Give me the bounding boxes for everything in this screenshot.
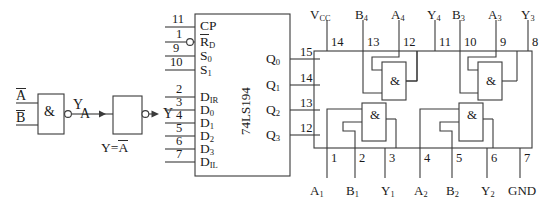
gate-3-input-a3 [468, 51, 496, 70]
package-top-label-a4: A4 [391, 8, 405, 24]
gate-4-input-a4 [372, 51, 399, 70]
gate-2-symbol: & [467, 108, 477, 121]
package-pin-number-8: 8 [532, 36, 538, 49]
gate-1-input-b1 [343, 122, 362, 148]
package-pin-number-7: 7 [524, 152, 530, 165]
package-top-label-vcc: VCC [310, 8, 330, 24]
package-pin-number-3: 3 [389, 152, 395, 165]
package-bottom-label-y1: Y1 [381, 184, 395, 200]
package-top-label-y3: Y3 [521, 8, 535, 24]
package-pin-number-4: 4 [424, 152, 430, 165]
package-top-label-y4: Y4 [427, 8, 441, 24]
gate-2-input-b2 [440, 122, 459, 148]
package-pin-number-14: 14 [331, 36, 344, 49]
package-bottom-label-b2: B2 [446, 184, 459, 200]
package-top-label-a3: A3 [488, 8, 502, 24]
figure-canvas: A B & Y A Y Y=A [0, 0, 548, 204]
gate-1-input-a1 [327, 109, 362, 148]
package-pin-number-10: 10 [464, 36, 477, 49]
package-pin-number-2: 2 [359, 152, 365, 165]
package-pin-number-1: 1 [331, 152, 337, 165]
quad-nand-lines [0, 0, 548, 204]
package-bottom-label-gnd: GND [508, 184, 536, 200]
gate-3-symbol: & [486, 74, 496, 87]
package-pin-number-13: 13 [367, 36, 380, 49]
package-top-label-b4: B4 [355, 8, 368, 24]
package-bottom-label-a1: A1 [310, 184, 324, 200]
gate-1-symbol: & [370, 108, 380, 121]
package-bottom-label-y2: Y2 [481, 184, 495, 200]
gate-4-output-y4 [406, 51, 417, 81]
package-pin-number-12: 12 [403, 36, 416, 49]
package-bottom-label-b1: B1 [346, 184, 359, 200]
gate-4-symbol: & [390, 74, 400, 87]
package-pin-number-11: 11 [439, 36, 451, 49]
package-bottom-label-a2: A2 [414, 184, 428, 200]
package-pin-number-6: 6 [491, 152, 497, 165]
package-top-label-b3: B3 [452, 8, 465, 24]
package-pin-number-9: 9 [500, 36, 506, 49]
package-pin-number-5: 5 [456, 152, 462, 165]
